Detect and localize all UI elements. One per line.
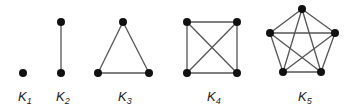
graph-k2: K2 bbox=[56, 18, 70, 106]
graph-vertex bbox=[145, 69, 153, 77]
graph-k3: K3 bbox=[94, 18, 153, 106]
graph-label: K4 bbox=[207, 89, 221, 106]
graph-vertex bbox=[233, 69, 241, 77]
graph-label: K3 bbox=[118, 89, 132, 106]
graph-vertex bbox=[298, 5, 306, 13]
graph-vertex bbox=[57, 18, 65, 26]
graph-vertex bbox=[233, 18, 241, 26]
graph-vertex bbox=[183, 18, 191, 26]
graph-edge bbox=[98, 22, 123, 73]
graph-vertex bbox=[279, 68, 287, 76]
graph-vertex bbox=[183, 69, 191, 77]
graph-vertex bbox=[57, 69, 65, 77]
graph-edge bbox=[283, 33, 335, 72]
graph-edge bbox=[270, 33, 321, 72]
graph-edge bbox=[302, 9, 335, 33]
graph-vertex bbox=[331, 29, 339, 37]
graph-vertex bbox=[94, 69, 102, 77]
complete-graphs-diagram: K1 K2 K3 K4 K5 bbox=[0, 0, 355, 108]
graph-k4: K4 bbox=[183, 18, 241, 106]
graph-k5: K5 bbox=[266, 5, 339, 106]
graph-edge bbox=[270, 33, 283, 72]
graph-vertex bbox=[317, 68, 325, 76]
graph-edge bbox=[123, 22, 149, 73]
graph-label: K1 bbox=[18, 89, 32, 106]
graph-edge bbox=[302, 9, 321, 72]
graph-vertex bbox=[266, 29, 274, 37]
graph-label: K2 bbox=[56, 89, 70, 106]
graph-vertex bbox=[119, 18, 127, 26]
graph-label: K5 bbox=[298, 89, 313, 106]
graph-k1: K1 bbox=[18, 69, 32, 106]
graph-edge bbox=[283, 9, 302, 72]
graph-edge bbox=[270, 9, 302, 33]
graph-vertex bbox=[19, 69, 27, 77]
